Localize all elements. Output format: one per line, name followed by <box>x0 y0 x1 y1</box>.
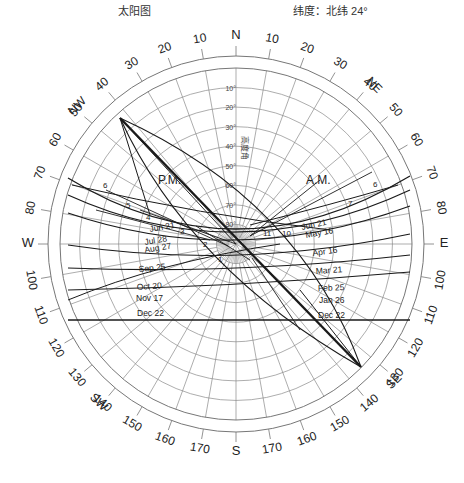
ring-tick <box>41 277 51 279</box>
date-label-pm: Dec 22 <box>137 308 164 318</box>
date-label-am: Jan 26 <box>319 295 345 305</box>
compass-s: S <box>232 443 241 458</box>
ring-tick <box>84 365 92 371</box>
ring-tick <box>357 92 363 100</box>
azimuth-label: 100 <box>431 269 448 291</box>
azimuth-line <box>123 259 224 379</box>
altitude-label: 20° <box>225 104 236 111</box>
am-label: A.M. <box>306 173 331 187</box>
azimuth-label: 110 <box>421 303 441 326</box>
azimuth-label: 30 <box>331 54 350 73</box>
azimuth-line <box>63 213 217 240</box>
azimuth-label: 170 <box>189 439 211 456</box>
altitude-label: 70° <box>225 202 236 209</box>
hour-label-am: 7 <box>348 199 353 208</box>
azimuth-label: 50 <box>386 100 406 119</box>
hour-label-am: 6 <box>373 180 378 189</box>
hour-label-pm: 5 <box>126 201 131 210</box>
compass-w: W <box>22 235 35 250</box>
ring-tick <box>269 49 271 59</box>
ring-tick <box>109 388 115 396</box>
azimuth-label: 10 <box>192 30 208 46</box>
altitude-label: 50° <box>225 163 236 170</box>
ring-tick <box>357 388 363 396</box>
date-label-am: Feb 25 <box>318 282 345 293</box>
azimuth-label: 80 <box>434 200 450 216</box>
ring-tick <box>330 407 335 416</box>
hour-label-pm: 6 <box>103 181 108 190</box>
date-label-am: Apr 16 <box>312 245 338 258</box>
sun-path-diagram: 1020304050607080100110120130140150160170… <box>0 0 464 483</box>
azimuth-label: 10 <box>264 30 280 46</box>
azimuth-label: 160 <box>153 429 177 449</box>
azimuth-line <box>249 109 350 229</box>
date-label-pm: Nov 17 <box>136 293 163 303</box>
pm-label: P.M. <box>158 173 181 187</box>
hour-label-am: 10 <box>282 229 291 238</box>
altitude-label: 80° <box>225 221 236 228</box>
azimuth-label: 60 <box>407 130 426 149</box>
azimuth-label: 170 <box>261 439 283 456</box>
hour-label-am: 11 <box>263 229 272 238</box>
ring-tick <box>65 338 74 343</box>
hour-label-pm: 3 <box>180 227 185 236</box>
altitude-label: 10° <box>225 85 236 92</box>
azimuth-label: 130 <box>65 365 89 390</box>
ring-tick <box>137 407 142 416</box>
azimuth-line <box>243 79 297 226</box>
azimuth-line <box>205 263 232 417</box>
ring-tick <box>269 429 271 439</box>
azimuth-label: 110 <box>31 303 51 326</box>
altitude-axis-label: 高度角 <box>240 136 250 160</box>
ring-tick <box>202 49 204 59</box>
date-label-pm: Oct 20 <box>136 280 162 292</box>
ring-tick <box>168 58 171 67</box>
date-label-am: Mar 21 <box>315 264 342 276</box>
azimuth-label: 120 <box>404 335 426 360</box>
ring-tick <box>300 421 303 430</box>
ring-tick <box>300 58 303 67</box>
ring-tick <box>202 429 204 439</box>
ring-tick <box>399 145 408 150</box>
ring-tick <box>65 145 74 150</box>
azimuth-label: 70 <box>31 164 49 182</box>
ring-tick <box>413 176 422 179</box>
azimuth-label: 60 <box>46 130 65 149</box>
compass-e: E <box>440 235 449 250</box>
sun-path-curves <box>68 118 410 367</box>
ring-tick <box>413 308 422 311</box>
altitude-label: 40° <box>225 143 236 150</box>
ring-tick <box>330 73 335 82</box>
azimuth-label: 30 <box>122 54 141 73</box>
hour-label-pm: 2 <box>203 240 208 249</box>
azimuth-label: 100 <box>23 269 40 291</box>
ring-tick <box>380 365 388 371</box>
ring-tick <box>50 176 59 179</box>
ring-tick <box>380 117 388 123</box>
ring-tick <box>399 338 408 343</box>
altitude-label: 30° <box>225 124 236 131</box>
hour-label-pm: 1 <box>218 255 223 264</box>
ring-tick <box>41 210 51 212</box>
date-label-pm: Sep 25 <box>138 261 166 274</box>
ring-tick <box>84 117 92 123</box>
compass-n: N <box>231 27 240 42</box>
azimuth-label: 120 <box>46 335 68 360</box>
azimuth-label: 80 <box>22 200 38 216</box>
azimuth-label: 160 <box>295 429 319 449</box>
date-label-pm: Jun 21 <box>149 220 176 234</box>
ring-tick <box>421 210 431 212</box>
ring-tick <box>50 308 59 311</box>
ring-tick <box>421 277 431 279</box>
azimuth-label: 150 <box>327 412 352 434</box>
azimuth-line <box>123 109 224 229</box>
azimuth-label: 140 <box>357 391 382 415</box>
azimuth-label: 20 <box>156 39 174 57</box>
ring-tick <box>109 92 115 100</box>
azimuth-label: 150 <box>120 412 145 434</box>
altitude-label: 60° <box>225 182 236 189</box>
compass-nw: NW <box>65 93 90 118</box>
ring-tick <box>137 73 142 82</box>
hour-line <box>252 258 300 330</box>
azimuth-line <box>239 263 266 417</box>
